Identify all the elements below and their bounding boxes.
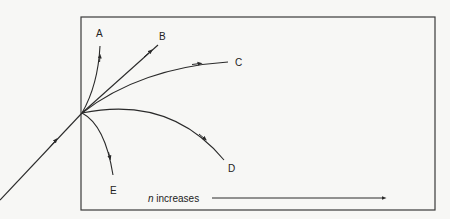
- refraction-diagram: A B C D E n increases: [0, 0, 450, 219]
- path-C: [82, 62, 228, 113]
- incident-ray: [0, 113, 82, 200]
- path-E: [82, 113, 113, 175]
- label-D: D: [228, 163, 235, 174]
- axis-label: n increases: [148, 193, 199, 204]
- path-B-arrow-icon: [144, 51, 151, 57]
- path-D: [82, 109, 224, 160]
- path-C-arrow-icon: [192, 64, 200, 65]
- incident-ray-arrow-icon: [50, 140, 56, 147]
- path-A: [82, 46, 100, 113]
- label-E: E: [110, 185, 117, 196]
- label-A: A: [96, 28, 103, 39]
- frame-box: [81, 17, 435, 210]
- axis-label-text: increases: [154, 193, 200, 204]
- label-C: C: [235, 57, 242, 68]
- label-B: B: [159, 31, 166, 42]
